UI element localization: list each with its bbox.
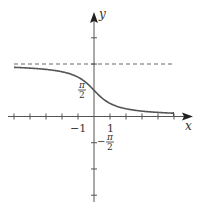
svg-text:π: π bbox=[78, 80, 86, 90]
x-axis bbox=[8, 113, 193, 121]
y-axis bbox=[90, 12, 98, 202]
svg-text:2: 2 bbox=[79, 90, 85, 100]
svg-text:−: − bbox=[97, 136, 105, 147]
arccot-graph: y x −1 1 π 2 − π 2 bbox=[0, 0, 203, 209]
svg-text:2: 2 bbox=[107, 142, 113, 152]
x-axis-label: x bbox=[185, 119, 192, 133]
y-tick-label-neg-pi-over-2: − π 2 bbox=[97, 132, 114, 152]
svg-text:π: π bbox=[106, 132, 114, 142]
y-tick-label-pi-over-2: π 2 bbox=[78, 80, 86, 100]
y-axis-label: y bbox=[98, 7, 106, 21]
x-tick-label-neg1: −1 bbox=[70, 122, 86, 135]
